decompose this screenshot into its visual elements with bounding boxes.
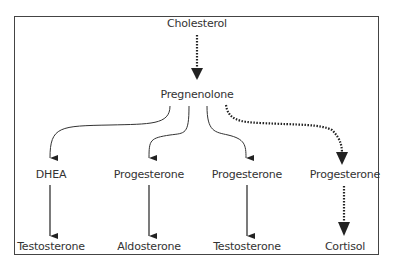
arrow-pregnenolone-progesterone-3 <box>226 105 342 156</box>
node-aldosterone: Aldosterone <box>117 240 181 253</box>
arrow-pregnenolone-progesterone-1 <box>149 106 189 158</box>
node-progesterone-2: Progesterone <box>212 168 282 181</box>
node-dhea: DHEA <box>36 168 66 181</box>
node-pregnenolone: Pregnenolone <box>160 88 233 101</box>
node-testosterone-2: Testosterone <box>213 240 281 253</box>
node-progesterone-3: Progesterone <box>310 168 380 181</box>
node-progesterone-1: Progesterone <box>114 168 184 181</box>
arrow-pregnenolone-dhea <box>50 106 170 158</box>
pathway-arrows <box>0 0 394 271</box>
arrow-pregnenolone-progesterone-2 <box>207 106 246 158</box>
node-cholesterol: Cholesterol <box>167 17 227 30</box>
node-cortisol: Cortisol <box>325 240 365 253</box>
node-testosterone-1: Testosterone <box>17 240 85 253</box>
